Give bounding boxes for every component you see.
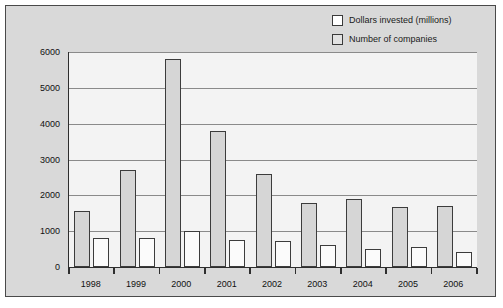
bar-dollars-invested-2004 xyxy=(346,199,362,267)
chart-figure: Dollars invested (millions) Number of co… xyxy=(0,0,503,308)
x-axis-tick-label-2000: 2000 xyxy=(158,280,204,289)
y-axis-tick-label: 0 xyxy=(22,263,60,272)
bar-dollars-invested-2003 xyxy=(301,203,317,268)
bar-dollars-invested-2005 xyxy=(392,207,408,267)
bar-dollars-invested-2006 xyxy=(437,206,453,267)
x-axis-tick-label-2003: 2003 xyxy=(294,280,340,289)
bar-number-of-companies-2003 xyxy=(320,245,336,267)
bar-number-of-companies-1999 xyxy=(139,238,155,267)
y-axis-tick-label: 5000 xyxy=(22,84,60,93)
bar-dollars-invested-2000 xyxy=(165,59,181,267)
x-axis-tick-label-2005: 2005 xyxy=(385,280,431,289)
bar-number-of-companies-2006 xyxy=(456,252,472,267)
bar-dollars-invested-1999 xyxy=(120,170,136,267)
gridline xyxy=(69,52,477,53)
x-axis-tick-label-2004: 2004 xyxy=(340,280,386,289)
y-axis-tick-label: 1000 xyxy=(22,227,60,236)
plot-area xyxy=(68,52,477,268)
x-axis-tick xyxy=(385,268,387,274)
x-axis-tick xyxy=(113,268,115,274)
x-axis-tick xyxy=(431,268,433,274)
x-axis-tick xyxy=(340,268,342,274)
bar-number-of-companies-2005 xyxy=(411,247,427,267)
x-axis: 199819992000200120022003200420052006 xyxy=(68,268,476,298)
y-axis-tick-label: 3000 xyxy=(22,156,60,165)
x-axis-tick xyxy=(68,268,70,274)
bar-number-of-companies-2001 xyxy=(229,240,245,267)
y-axis-tick-label: 6000 xyxy=(22,48,60,57)
y-axis-tick-label: 2000 xyxy=(22,191,60,200)
bar-dollars-invested-1998 xyxy=(74,211,90,267)
bar-dollars-invested-2001 xyxy=(210,131,226,267)
x-axis-tick-label-2006: 2006 xyxy=(430,280,476,289)
bar-dollars-invested-2002 xyxy=(256,174,272,267)
x-axis-tick xyxy=(295,268,297,274)
x-axis-tick-label-2001: 2001 xyxy=(204,280,250,289)
y-axis-tick-label: 4000 xyxy=(22,120,60,129)
bar-number-of-companies-2002 xyxy=(275,241,291,267)
x-axis-tick xyxy=(476,268,478,274)
x-axis-tick-label-1998: 1998 xyxy=(68,280,114,289)
gridline xyxy=(69,88,477,89)
bar-number-of-companies-2000 xyxy=(184,231,200,267)
gridline xyxy=(69,124,477,125)
x-axis-tick xyxy=(204,268,206,274)
x-axis-tick-label-1999: 1999 xyxy=(113,280,159,289)
bar-number-of-companies-2004 xyxy=(365,249,381,267)
x-axis-tick xyxy=(249,268,251,274)
x-axis-tick xyxy=(159,268,161,274)
gridline xyxy=(69,160,477,161)
bar-number-of-companies-1998 xyxy=(93,238,109,267)
x-axis-tick-label-2002: 2002 xyxy=(249,280,295,289)
